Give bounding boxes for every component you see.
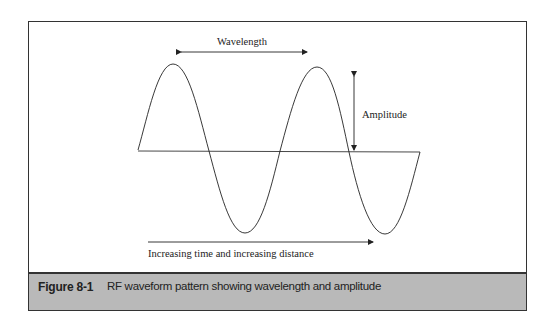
direction-label: Increasing time and increasing distance: [148, 248, 314, 259]
sine-wave: [138, 64, 420, 234]
figure-number: Figure 8-1: [38, 280, 93, 294]
figure-caption: RF waveform pattern showing wavelength a…: [107, 280, 381, 292]
caption-band: Figure 8-1 RF waveform pattern showing w…: [28, 272, 527, 311]
baseline: [138, 151, 420, 152]
wavelength-label: Wavelength: [217, 36, 268, 47]
amplitude-label: Amplitude: [362, 109, 407, 120]
